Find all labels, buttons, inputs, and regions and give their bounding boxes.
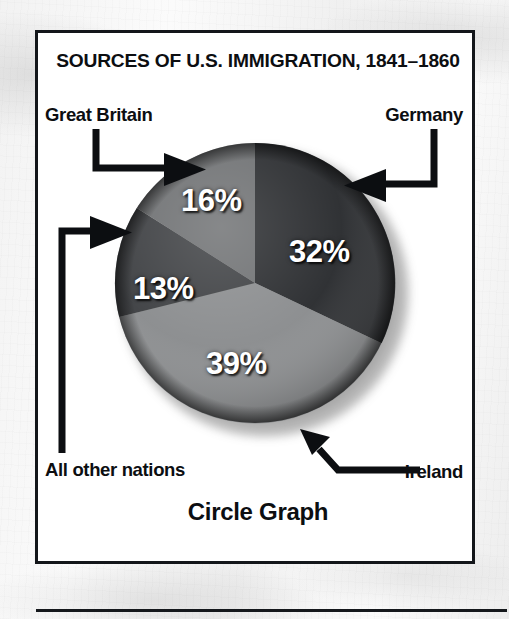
figure-frame: SOURCES OF U.S. IMMIGRATION, 1841–1860 G…: [35, 30, 475, 564]
callout-label-great-britain: Great Britain: [45, 104, 153, 126]
figure-caption: Circle Graph: [38, 498, 478, 526]
page-title: SOURCES OF U.S. IMMIGRATION, 1841–1860: [38, 50, 478, 72]
pie-chart: 32% 39% 13% 16%: [111, 139, 411, 439]
page-background: SOURCES OF U.S. IMMIGRATION, 1841–1860 G…: [0, 0, 509, 619]
callout-label-all-other-nations: All other nations: [45, 459, 185, 481]
bottom-divider-rule: [36, 609, 507, 612]
callout-label-germany: Germany: [385, 104, 463, 126]
slice-value-ireland: 39%: [206, 346, 267, 382]
callout-label-ireland: Ireland: [405, 461, 463, 483]
slice-value-all-other-nations: 13%: [133, 271, 194, 307]
slice-value-germany: 32%: [289, 234, 350, 270]
slice-value-great-britain: 16%: [181, 183, 242, 219]
